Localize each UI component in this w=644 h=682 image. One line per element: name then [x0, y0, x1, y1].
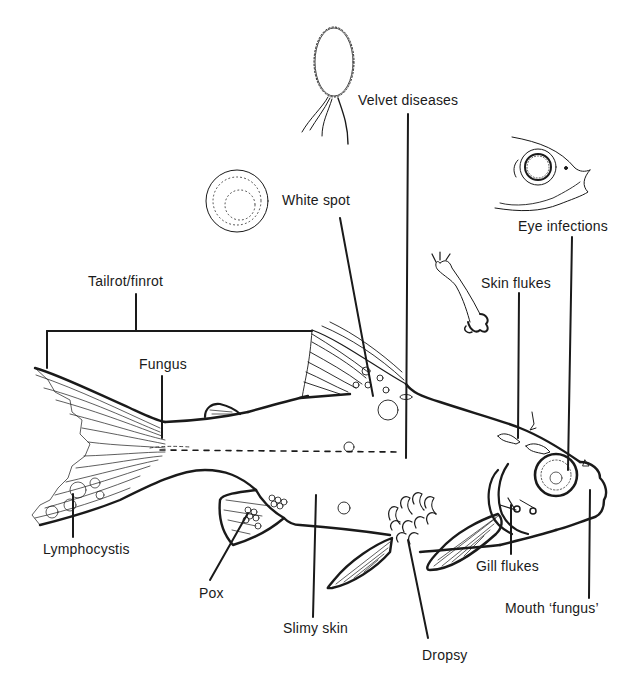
- leader-eye: [568, 237, 572, 470]
- label-lymphocystis: Lymphocystis: [43, 541, 130, 557]
- leader-velvet: [406, 114, 408, 458]
- leader-white-spot: [340, 218, 373, 396]
- eye-infection-head-illustration: [495, 137, 590, 211]
- dorsal-fin: [300, 322, 406, 398]
- label-eye-infections: Eye infections: [518, 218, 608, 234]
- label-fungus: Fungus: [139, 356, 187, 372]
- leader-skin-flukes: [518, 293, 519, 438]
- leader-mouth: [589, 490, 590, 598]
- dropsy-scales: [389, 493, 436, 544]
- label-dropsy: Dropsy: [422, 647, 468, 663]
- fish-disease-diagram: [0, 0, 644, 682]
- leader-dropsy: [408, 540, 428, 638]
- pelvic-fin: [328, 538, 392, 588]
- label-slimy-skin: Slimy skin: [283, 620, 348, 636]
- leader-pox: [210, 513, 248, 580]
- anal-fin: [220, 490, 287, 545]
- label-pox: Pox: [199, 585, 224, 601]
- leader-slimy-skin: [313, 495, 316, 617]
- label-gill-flukes: Gill flukes: [476, 558, 539, 574]
- white-spot-cyst-illustration: [206, 170, 268, 232]
- label-tailrot-finrot: Tailrot/finrot: [88, 273, 163, 289]
- label-white-spot: White spot: [282, 192, 350, 208]
- tail-fin: [32, 368, 165, 525]
- label-velvet-diseases: Velvet diseases: [358, 92, 458, 108]
- skin-fluke-illustration: [432, 252, 488, 333]
- velvet-parasite-illustration: [302, 27, 354, 144]
- label-skin-flukes: Skin flukes: [481, 275, 551, 291]
- label-mouth-fungus: Mouth ‘fungus’: [505, 600, 599, 616]
